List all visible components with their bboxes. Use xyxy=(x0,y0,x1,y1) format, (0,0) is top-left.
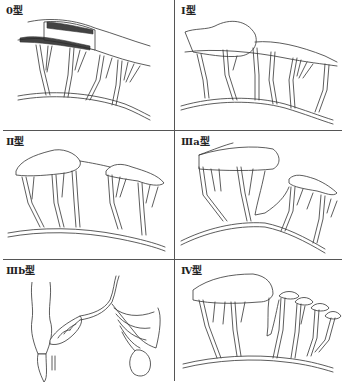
saccular-lesion xyxy=(130,350,151,376)
diagram-type-0 xyxy=(0,0,172,128)
panel-type-3a: Ⅲa型 xyxy=(175,131,347,259)
diagram-type-2 xyxy=(0,131,172,259)
panel-type-3b: Ⅲb型 xyxy=(0,260,172,384)
mesentery-line-lower xyxy=(181,227,325,253)
mesentery-line-upper xyxy=(18,93,150,116)
bowel-wall-outer xyxy=(80,161,110,167)
vessels xyxy=(36,45,140,105)
panel-type-0: 0型 xyxy=(0,0,172,128)
diagram-type-4 xyxy=(175,260,347,384)
diagram-type-3b xyxy=(0,260,172,384)
diagram-type-1 xyxy=(175,0,347,128)
bowel-loop xyxy=(31,282,51,354)
polypoid-lesions xyxy=(279,292,341,320)
panel-label-type-3b: Ⅲb型 xyxy=(6,265,35,277)
panel-type-1: Ⅰ型 xyxy=(175,0,347,128)
prolapse-fold xyxy=(255,171,289,215)
lesion-mass-lower xyxy=(289,175,337,194)
mesentery-fan xyxy=(112,304,160,348)
mesentery-line-lower xyxy=(8,233,165,251)
mesentery-line-lower xyxy=(18,97,150,120)
coiled-segment xyxy=(50,316,82,345)
bowel-wall-outer xyxy=(255,42,337,62)
appendage xyxy=(37,354,46,382)
vessels xyxy=(197,48,329,112)
prolapse-fold xyxy=(267,298,279,336)
small-stalk xyxy=(52,356,55,370)
panel-label-type-0: 0型 xyxy=(6,5,23,17)
panel-type-4: Ⅳ型 xyxy=(175,260,347,384)
panel-label-type-3a: Ⅲa型 xyxy=(181,136,210,148)
mesentery-line-lower xyxy=(181,102,333,124)
panel-label-type-2: Ⅱ型 xyxy=(6,136,24,148)
panel-label-type-1: Ⅰ型 xyxy=(181,5,196,17)
lesion-mass-left xyxy=(16,150,80,176)
lesion-mass-right xyxy=(106,164,164,185)
vessels xyxy=(199,167,337,243)
feeding-vessel-lower xyxy=(80,276,119,320)
lesion-mass-large xyxy=(193,274,273,303)
mesentery-line-upper xyxy=(181,98,333,120)
classification-figure: 0型 Ⅰ型 xyxy=(0,0,347,384)
panel-label-type-4: Ⅳ型 xyxy=(181,265,202,277)
diagram-type-3a xyxy=(175,131,347,259)
panel-type-2: Ⅱ型 xyxy=(0,131,172,259)
feeding-vessel-upper xyxy=(80,276,116,316)
